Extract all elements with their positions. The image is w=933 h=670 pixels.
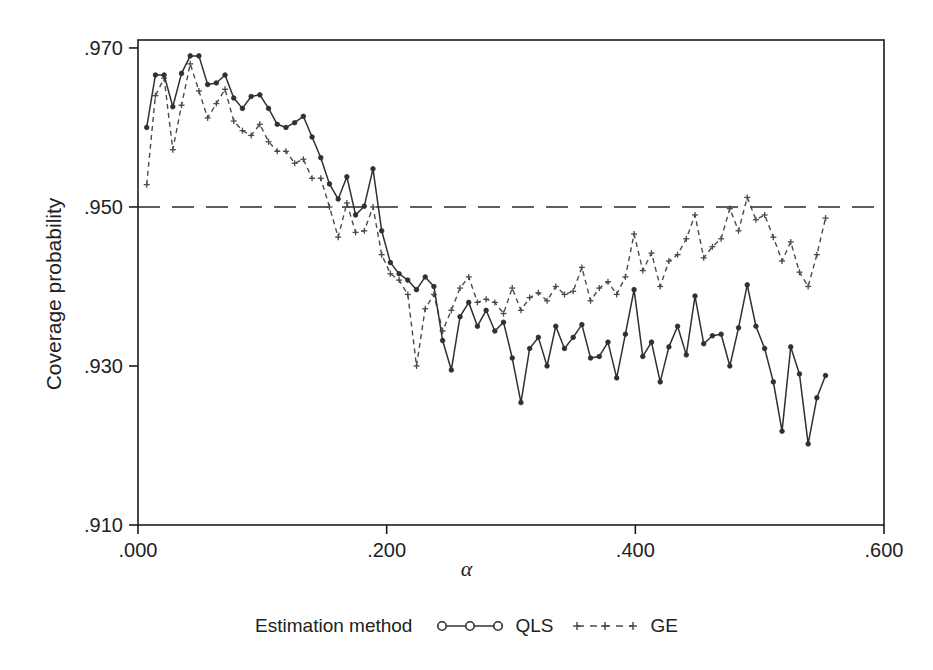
chart-legend: Estimation method QLS GE — [0, 615, 933, 637]
x-axis-title: α — [0, 556, 933, 582]
series-line-ge — [144, 61, 829, 369]
y-tick-label-970: .970 — [23, 36, 123, 59]
series-line-qls — [144, 54, 827, 447]
y-axis-title: Coverage probability — [42, 164, 66, 424]
chart-figure: .970 .950 .930 .910 .000 .200 .400 .600 … — [0, 0, 933, 670]
y-tick-label-930: .930 — [23, 354, 123, 377]
y-tick-label-910: .910 — [23, 514, 123, 537]
legend-swatch-ge-icon — [569, 618, 641, 634]
legend-label-ge: GE — [650, 615, 677, 637]
y-tick-label-950: .950 — [23, 195, 123, 218]
axis-tick-marks — [129, 48, 884, 534]
legend-swatch-qls-icon — [434, 618, 506, 634]
legend-title: Estimation method — [255, 615, 412, 637]
legend-entry-qls: QLS — [434, 615, 553, 637]
legend-label-qls: QLS — [515, 615, 553, 637]
legend-entry-ge: GE — [569, 615, 677, 637]
plot-frame — [138, 40, 884, 525]
